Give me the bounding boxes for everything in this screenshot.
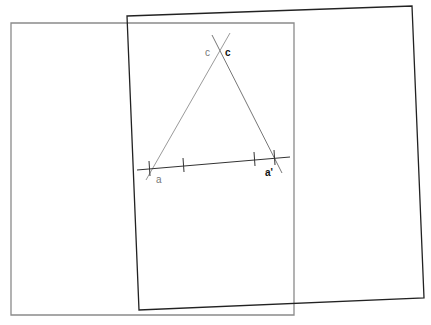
label-a: a: [156, 174, 162, 185]
label-a-prime: a': [265, 167, 273, 178]
tick-3: [254, 152, 255, 166]
diagram-canvas: c c a a': [0, 0, 431, 325]
triangle-right-side: [212, 35, 282, 173]
label-c-black: c: [225, 47, 231, 58]
triangle-left-side: [146, 33, 230, 180]
diagram-svg: c c a a': [0, 0, 431, 325]
label-c-gray: c: [205, 47, 210, 58]
tick-marks: [149, 150, 275, 176]
tick-2: [183, 158, 184, 172]
tick-a-prime: [274, 150, 275, 165]
